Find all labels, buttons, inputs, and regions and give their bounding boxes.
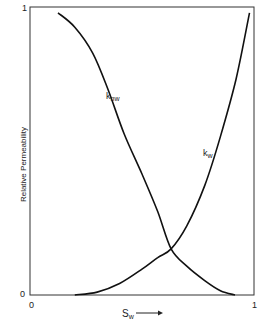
kw-label-sub: w — [208, 152, 213, 159]
kw-curve — [75, 13, 250, 295]
y-axis-label: Relative Permeability — [19, 120, 28, 210]
x-axis-label-sub: w — [129, 313, 134, 320]
x-tick-0: 0 — [29, 301, 34, 310]
plot-frame — [30, 7, 254, 295]
knw-label: knw — [106, 91, 119, 102]
kw-label: kw — [203, 148, 213, 159]
knw-label-sub: nw — [111, 95, 120, 102]
x-tick-1: 1 — [252, 301, 257, 310]
x-axis-label: Sw — [122, 308, 134, 320]
y-tick-0: 0 — [20, 290, 25, 299]
y-tick-1: 1 — [22, 4, 27, 13]
plot-area — [0, 0, 262, 328]
x-axis-arrow-icon — [158, 311, 163, 316]
relative-permeability-chart: 1 0 0 1 Relative Permeability Sw knw kw — [0, 0, 262, 328]
x-axis-label-main: S — [122, 308, 129, 319]
